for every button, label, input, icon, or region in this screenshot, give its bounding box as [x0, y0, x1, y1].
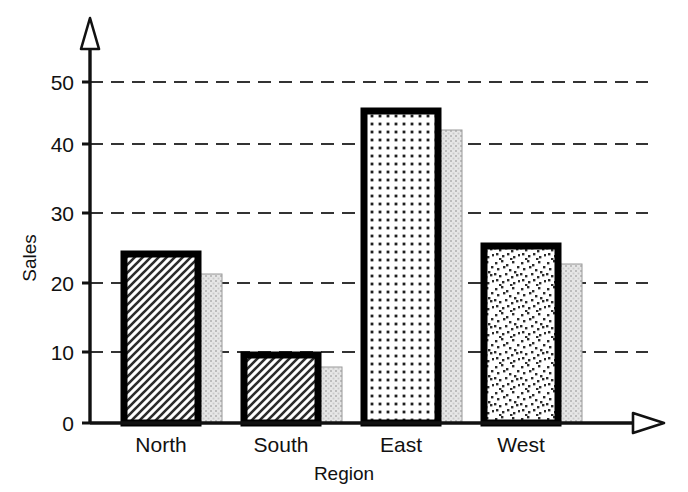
bar-north[interactable]	[124, 254, 198, 423]
bar-group-south[interactable]	[244, 355, 342, 423]
bar-chart-figure: 0 10 20 30 40 50 North South East West R…	[0, 0, 688, 492]
y-tick-labels: 0 10 20 30 40 50	[51, 71, 74, 435]
chart-canvas: 0 10 20 30 40 50 North South East West R…	[0, 0, 688, 492]
bar-west[interactable]	[484, 246, 558, 423]
y-axis-title: Sales	[19, 234, 40, 282]
y-tick-label-40: 40	[51, 133, 74, 156]
y-tick-label-50: 50	[51, 71, 74, 94]
y-tick-label-20: 20	[51, 272, 74, 295]
y-axis-arrowhead-icon	[81, 18, 99, 49]
x-category-label-east: East	[380, 433, 422, 456]
y-tick-label-10: 10	[51, 341, 74, 364]
x-category-label-south: South	[254, 433, 309, 456]
x-axis-title: Region	[314, 463, 374, 484]
bar-group-east[interactable]	[364, 111, 462, 423]
y-tick-label-30: 30	[51, 202, 74, 225]
x-category-labels: North South East West	[135, 433, 545, 456]
y-tick-label-0: 0	[62, 412, 74, 435]
bar-south[interactable]	[244, 355, 318, 423]
x-category-label-west: West	[497, 433, 545, 456]
bar-group-west[interactable]	[484, 246, 582, 423]
x-category-label-north: North	[135, 433, 186, 456]
bar-east[interactable]	[364, 111, 438, 423]
bar-group-north[interactable]	[124, 254, 222, 423]
x-axis-arrowhead-icon	[633, 413, 664, 433]
